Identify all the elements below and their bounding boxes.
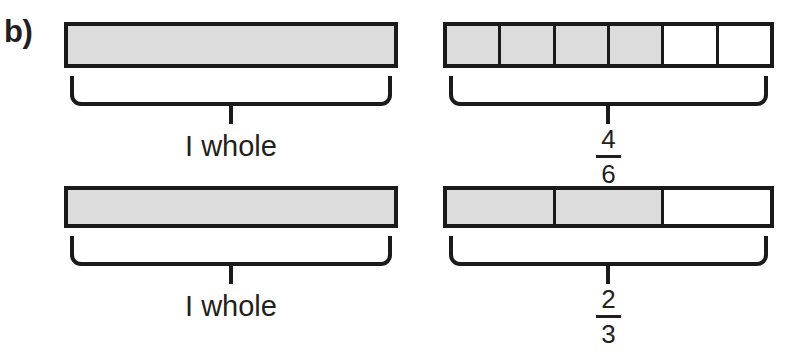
bar-caption: I whole	[64, 132, 398, 161]
brace-center-tick	[229, 104, 233, 124]
fraction-bar	[64, 186, 398, 228]
fraction-numerator: 2	[443, 286, 774, 313]
brace-center-tick	[606, 264, 610, 284]
bar-caption: I whole	[64, 292, 398, 321]
measure-brace	[70, 236, 392, 266]
bar-model-row1-right: 4 6	[443, 22, 774, 172]
brace-center-tick	[606, 104, 610, 124]
fraction-bar	[443, 186, 774, 228]
fraction-bar	[443, 22, 774, 68]
fraction-denominator: 6	[443, 161, 774, 188]
bar-segment	[664, 26, 718, 64]
bar-segment	[556, 26, 610, 64]
part-label: b)	[4, 16, 32, 47]
fraction-label: 4 6	[443, 126, 774, 189]
bar-segment	[501, 26, 555, 64]
measure-brace	[449, 76, 768, 106]
fraction-denominator: 3	[443, 321, 774, 348]
measure-brace	[449, 236, 768, 266]
bar-model-row2-left: I whole	[64, 186, 398, 326]
bar-segment	[68, 26, 394, 64]
fraction-numerator: 4	[443, 126, 774, 153]
bar-segment	[610, 26, 664, 64]
brace-center-tick	[229, 264, 233, 284]
bar-segment	[447, 190, 556, 224]
bar-segment	[719, 26, 770, 64]
bar-segment	[556, 190, 665, 224]
bar-model-row2-right: 2 3	[443, 186, 774, 336]
measure-brace	[70, 76, 392, 106]
bar-segment	[447, 26, 501, 64]
fraction-label: 2 3	[443, 286, 774, 349]
fraction-divider	[596, 155, 621, 158]
fraction-bar	[64, 22, 398, 68]
bar-segment	[68, 190, 394, 224]
bar-segment	[664, 190, 770, 224]
fraction-bar-figure: b) I whole 4 6 I who	[0, 0, 787, 362]
bar-model-row1-left: I whole	[64, 22, 398, 162]
fraction-divider	[596, 315, 621, 318]
